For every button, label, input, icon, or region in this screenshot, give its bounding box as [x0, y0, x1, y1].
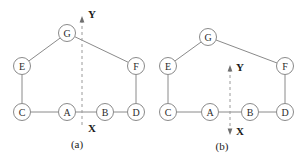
y-axis-label: Y [236, 61, 244, 73]
graph-node-d[interactable]: D [277, 104, 294, 121]
node-label-d: D [281, 107, 288, 118]
graph-node-a[interactable]: A [59, 104, 76, 121]
graph-node-e[interactable]: E [160, 58, 177, 75]
figure-container: YXABCDEFG(a)YXABCDEFG(b) [0, 0, 303, 158]
node-label-c: C [165, 107, 172, 118]
graph-node-b[interactable]: B [242, 104, 259, 121]
graph-node-c[interactable]: C [14, 104, 31, 121]
graph-node-d[interactable]: D [128, 104, 145, 121]
graph-node-f[interactable]: F [277, 58, 294, 75]
panel-b: YXABCDEFG(b) [160, 29, 294, 154]
edge-e-g [29, 38, 60, 61]
graph-node-b[interactable]: B [97, 104, 114, 121]
node-label-g: G [204, 32, 211, 43]
graph-node-g[interactable]: G [59, 25, 76, 42]
node-label-a: A [63, 107, 71, 118]
node-label-f: F [282, 61, 288, 72]
y-axis-arrow-icon [80, 16, 85, 23]
coordinate-axis: YX [80, 8, 96, 134]
edge-g-f [75, 37, 129, 63]
edge-g-f [216, 40, 277, 63]
panel-caption-b: (b) [216, 140, 229, 153]
graph-node-e[interactable]: E [14, 58, 31, 75]
node-label-b: B [247, 107, 254, 118]
panel-a: YXABCDEFG(a) [14, 8, 145, 151]
node-label-b: B [102, 107, 109, 118]
x-axis-label: X [236, 125, 244, 137]
graph-node-g[interactable]: G [200, 29, 217, 46]
node-label-e: E [165, 61, 171, 72]
node-label-c: C [19, 107, 26, 118]
graph-node-f[interactable]: F [128, 58, 145, 75]
graph-node-c[interactable]: C [160, 104, 177, 121]
node-label-f: F [133, 61, 139, 72]
y-axis-arrow-icon [228, 65, 233, 72]
y-axis-label: Y [88, 8, 96, 20]
x-axis-arrow-icon [228, 129, 233, 136]
graph-figure: YXABCDEFG(a)YXABCDEFG(b) [0, 0, 303, 158]
graph-node-a[interactable]: A [202, 104, 219, 121]
panel-caption-a: (a) [71, 138, 84, 151]
node-label-a: A [206, 107, 214, 118]
node-label-d: D [132, 107, 139, 118]
node-label-g: G [63, 28, 70, 39]
x-axis-label: X [88, 122, 96, 134]
edge-e-g [175, 42, 201, 61]
coordinate-axis: YX [228, 61, 244, 137]
node-label-e: E [19, 61, 25, 72]
